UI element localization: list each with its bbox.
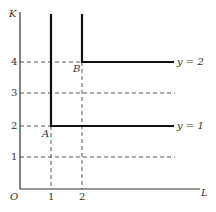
y-tick-2: 2	[11, 120, 17, 131]
isoquant-y2-label: y = 2	[176, 56, 204, 67]
y-tick-3: 3	[11, 87, 17, 98]
isoquant-y1-label: y = 1	[176, 120, 204, 131]
isoquant-y2	[82, 14, 174, 62]
isoquant-y1	[51, 14, 174, 126]
isoquant-y2-line	[82, 14, 174, 62]
axes	[20, 12, 200, 189]
isoquant-y1-line	[51, 14, 174, 126]
x-tick-2: 2	[79, 191, 85, 202]
origin-label: O	[10, 191, 18, 202]
point-b-label: B	[72, 63, 80, 74]
k-axis-label: K	[8, 8, 17, 19]
l-axis-label: L	[200, 187, 208, 198]
x-tick-1: 1	[48, 191, 54, 202]
isoquant-diagram: K L O 1 2 3 4 1 2 A B y = 1 y = 2	[0, 0, 216, 212]
y-tick-4: 4	[11, 56, 17, 67]
y-tick-1: 1	[11, 151, 17, 162]
point-a-label: A	[41, 128, 49, 139]
